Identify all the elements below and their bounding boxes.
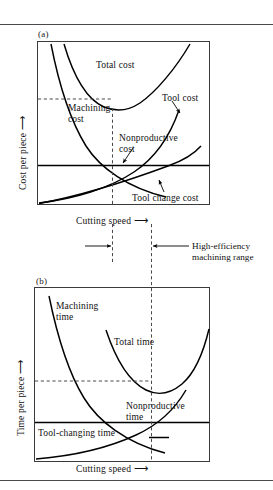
curve-label-nonproductive-time: Nonproductive time (126, 401, 185, 422)
x-axis-label-cutting-speed-a: Cutting speed ⟶ (76, 215, 148, 226)
curve-label-machining-cost-line1: Machining (68, 103, 111, 114)
top-divider-rule (0, 24, 273, 25)
y-axis-arrow-b: ⟶ (16, 360, 26, 377)
curve-label-tool-changing-time: Tool-changing time (38, 428, 115, 439)
curve-label-nonproductive-cost-line2: cost (119, 144, 178, 155)
curve-label-tool-cost: Tool cost (162, 93, 198, 104)
high-efficiency-range-line1: High-efficiency (192, 241, 253, 252)
curve-label-tool-change-cost: Tool change cost (132, 193, 199, 204)
bottom-divider-rule (0, 480, 273, 481)
curve-label-nonproductive-time-line1: Nonproductive (126, 401, 185, 412)
x-axis-label-b-text: Cutting speed (76, 464, 131, 474)
curve-label-total-time: Total time (114, 337, 154, 348)
panel-label-b: (b) (36, 276, 47, 286)
x-axis-label-cutting-speed-b: Cutting speed ⟶ (76, 463, 148, 474)
y-axis-label-time-text: Time per piece (16, 377, 26, 436)
figure-container: (a) Cost per piece ⟶ Cutting speed ⟶ Tot… (0, 0, 273, 490)
y-axis-label-cost-text: Cost per piece (18, 133, 28, 190)
curve-label-nonproductive-cost-line1: Nonproductive (119, 133, 178, 144)
curve-label-machining-cost-line2: cost (68, 114, 111, 125)
curve-label-machining-time-line1: Machining (56, 301, 99, 312)
curve-label-machining-time: Machining time (56, 301, 99, 322)
panel-label-a: (a) (38, 29, 49, 39)
curve-label-machining-time-line2: time (56, 312, 99, 323)
curve-label-machining-cost: Machining cost (68, 103, 111, 124)
y-axis-label-cost: Cost per piece ⟶ (17, 116, 28, 190)
x-axis-arrow-a: ⟶ (131, 216, 148, 226)
curve-label-total-cost: Total cost (96, 60, 135, 71)
curve-label-nonproductive-time-line2: time (126, 412, 185, 423)
y-axis-arrow-a: ⟶ (18, 116, 28, 133)
curve-label-nonproductive-cost: Nonproductive cost (119, 133, 178, 154)
x-axis-label-a-text: Cutting speed (76, 216, 131, 226)
high-efficiency-range-caption: High-efficiency machining range (192, 241, 253, 262)
leader-tool-change-cost (159, 180, 164, 192)
high-efficiency-range-line2: machining range (192, 252, 253, 263)
x-axis-arrow-b: ⟶ (131, 464, 148, 474)
y-axis-label-time: Time per piece ⟶ (15, 360, 26, 436)
